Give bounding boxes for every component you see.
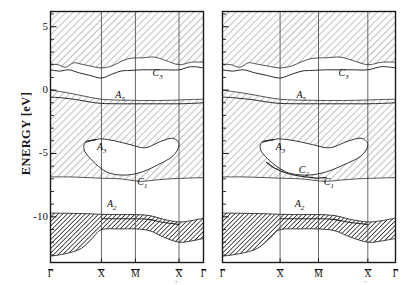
x-tick-label: X: [277, 269, 284, 280]
x-tick-label: M: [131, 269, 139, 280]
band-curve-surface-state-C3: [223, 67, 396, 78]
x-tick-label: Γ: [48, 269, 54, 280]
x-tick-label: Γ: [220, 269, 226, 280]
left-panel: [51, 12, 204, 263]
band-curve-surface-state-C3: [51, 67, 204, 78]
x-tick-label: X': [176, 269, 183, 280]
band-label-C1: C1: [324, 176, 334, 190]
band-structure-figure: ENERGY [eV] 50-5-10 ΓXMX'ΓΓXMX'Γ C3A5A3C…: [0, 0, 407, 285]
band-label-C3: C3: [339, 67, 349, 81]
x-tick-label: X': [364, 269, 371, 280]
lower-bulk-band-region: [223, 213, 396, 256]
x-tick-label: M: [314, 269, 322, 280]
band-structure-canvas: [0, 0, 407, 285]
band-label-C2: C2: [299, 164, 309, 178]
x-tick-label: Γ: [201, 269, 207, 280]
band-label-A5: A5: [296, 89, 306, 103]
right-panel: [223, 12, 396, 263]
band-label-C1: C1: [137, 176, 147, 190]
band-label-A2: A2: [107, 198, 117, 212]
x-tick-label: X: [98, 269, 105, 280]
band-label-C3: C3: [153, 67, 163, 81]
band-label-A3: A3: [97, 141, 107, 155]
lower-bulk-band-region: [51, 213, 204, 256]
x-tick-label: Γ: [393, 269, 399, 280]
band-label-A3: A3: [276, 141, 286, 155]
band-label-A2: A2: [295, 198, 305, 212]
band-label-A5: A5: [115, 89, 125, 103]
